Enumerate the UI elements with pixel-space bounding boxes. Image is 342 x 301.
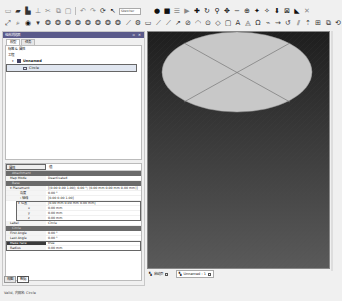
view-right-icon[interactable]: − [233,7,241,15]
record-macro-icon[interactable]: ● [153,7,161,15]
document-icon [17,59,21,63]
property-value[interactable]: 0.00 mm [46,216,141,220]
property-value[interactable]: 0.00 mm [46,246,141,250]
view-front-icon[interactable]: ⊕ [243,7,251,15]
measure-icon[interactable]: ◣ [293,7,301,15]
tab-start-page[interactable]: ▚ 启动页 [147,270,170,278]
property-value[interactable]: true [46,241,141,245]
rotate-tool-icon[interactable]: ↺ [284,19,292,27]
polygon-tool-icon[interactable]: ◇ [214,19,222,27]
property-value[interactable]: [0.00 mm 0.00 mm 0.00 mm] [46,201,141,205]
text-tool-icon[interactable]: A [234,19,242,27]
property-value[interactable]: [(0.00 0.00 1.00); 0.00 °; (0.00 mm 0.00… [46,186,141,190]
redo-icon[interactable]: ↷ [89,7,97,15]
property-value[interactable]: 0.00 mm [46,206,141,210]
open-file-icon[interactable]: ▰ [14,7,22,15]
box-tool-icon[interactable]: ▢ [224,19,232,27]
stop-macro-icon[interactable]: ■ [163,7,171,15]
close-tab-icon[interactable] [165,273,168,276]
property-key: Map Mode [6,176,46,180]
position-property-group: ▾ 位置 [0.00 mm 0.00 mm 0.00 mm] x 0.00 mm… [16,201,141,221]
measure-distance-icon[interactable]: ⟋ [124,19,132,27]
tree-item-circle[interactable]: Circle [6,64,137,72]
property-value[interactable]: 0.00 ° [46,231,141,235]
property-key: z [16,216,46,220]
box-view-icon[interactable]: ⊠ [283,7,291,15]
combo-view-title-bar: 组合浏览器 ▫ ✕ [3,32,144,38]
play-macro-icon[interactable]: ▶ [183,7,191,15]
view-rear-icon[interactable]: ⬇ [273,7,281,15]
move-icon[interactable]: ⇝ [274,19,282,27]
tab-data[interactable]: 数据 [17,276,29,283]
view-rear-cube-icon[interactable]: ❂ [74,19,82,27]
snap-icon[interactable]: ⟲ [334,19,342,27]
paste-icon[interactable]: ▢ [64,7,72,15]
3d-view[interactable] [147,31,330,269]
fit-all-icon[interactable]: ⤢ [4,19,12,27]
view-left-cube-icon[interactable]: ❂ [94,19,102,27]
undo-icon[interactable]: ↶ [79,7,87,15]
array-icon[interactable]: ⊞ [314,19,322,27]
property-row[interactable]: Radius 0.00 mm [6,246,141,251]
property-value[interactable]: 0.00 ° [46,191,141,195]
print-icon[interactable]: ⊥ [34,7,42,15]
line-tool-icon[interactable]: ⟋ [154,19,162,27]
scrollbar-strip[interactable] [331,31,333,271]
close-toolbar-icon[interactable]: ✕ [303,7,311,15]
dropdown-icon[interactable]: ▾ [34,19,42,27]
tab-unnamed[interactable]: ▚ Unnamed : 1 [176,270,214,278]
circle-tool-icon[interactable]: ⊘ [184,19,192,27]
circle-shape[interactable] [148,32,330,269]
view-cube-icon[interactable]: ❂ [114,19,122,27]
rotate-icon[interactable]: ↻ [203,7,211,15]
close-tab-icon[interactable] [208,273,211,276]
view-left-icon[interactable]: ✥ [223,7,231,15]
view-right-cube-icon[interactable]: ❂ [64,19,72,27]
property-value[interactable]: 0.00 mm [46,211,141,215]
polyline-tool-icon[interactable]: ⟋ [164,19,172,27]
trim-icon[interactable]: ⌁ [264,19,272,27]
property-key: x [16,206,46,210]
document-tab-icon: ▚ [179,271,182,277]
fit-selection-icon[interactable]: ⌕ [14,19,22,27]
upgrade-icon[interactable]: ⇡ [304,19,312,27]
wire-tool-icon[interactable]: ↗ [174,19,182,27]
settings-icon[interactable]: ⚙ [134,19,142,27]
copy-icon[interactable]: ⧉ [54,7,62,15]
expand-arrow-icon[interactable]: ▾ [12,58,15,64]
save-icon[interactable]: ▙ [24,7,32,15]
ellipse-tool-icon[interactable]: ⊙ [204,19,212,27]
view-front-cube-icon[interactable]: ❂ [44,19,52,27]
panel-controls[interactable]: ▫ ✕ [133,32,142,38]
value-column-header[interactable]: 值 [46,164,52,170]
property-value[interactable]: Deactivated [46,176,141,180]
draw-style-icon[interactable]: ⚲ [213,7,221,15]
property-value[interactable]: 0.00 ° [46,236,141,240]
refresh-icon[interactable]: ⟳ [99,7,107,15]
whats-this-icon[interactable]: ↖ [109,7,117,15]
view-bottom-cube-icon[interactable]: ❂ [84,19,92,27]
view-bottom-icon[interactable]: ✧ [263,7,271,15]
dimension-tool-icon[interactable]: ◬ [244,19,252,27]
view-top-cube-icon[interactable]: ❂ [54,19,62,27]
cut-icon[interactable]: ✂ [44,7,52,15]
property-value[interactable]: Circle [46,221,141,225]
property-view-tabs: 视图 数据 [4,276,29,283]
tab-view[interactable]: 视图 [4,276,16,283]
macro-edit-icon[interactable]: ☰ [173,7,181,15]
view-iso-icon[interactable]: ◉ [24,19,32,27]
property-column-header[interactable]: 属性 [6,164,46,170]
property-value[interactable]: [0.00 0.00 1.00] [46,196,141,200]
clone-icon[interactable]: ⧉ [324,19,332,27]
arc-tool-icon[interactable]: ◠ [194,19,202,27]
rectangle-tool-icon[interactable]: ▭ [144,19,152,27]
shapestring-icon[interactable]: Ω [254,19,262,27]
offset-icon[interactable]: ⫽ [294,19,302,27]
view-top-icon[interactable]: ✦ [253,7,261,15]
view-axo-cube-icon[interactable]: ❂ [104,19,112,27]
separator [75,7,76,15]
new-file-icon[interactable]: ▭ [4,7,12,15]
workbench-selector[interactable]: Sketcher [119,8,141,15]
std-view-icon[interactable]: ✚ [193,7,201,15]
status-bar: Valid, 内部名: Circle [0,289,333,301]
